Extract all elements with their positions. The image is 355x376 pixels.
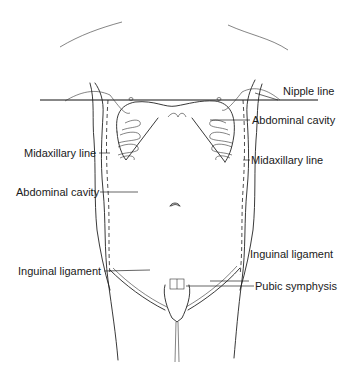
left-rib <box>118 132 140 143</box>
xiphoid-process <box>168 113 186 117</box>
label-abdominal-cavity-right: Abdominal cavity <box>252 114 335 126</box>
right-costal-margin <box>192 118 225 162</box>
left-rib <box>118 144 138 155</box>
right-inguinal-ligament <box>188 268 240 310</box>
left-chest-curve <box>65 91 130 113</box>
right-rib <box>210 120 228 130</box>
right-rib <box>212 144 232 155</box>
leader-inguinal-ligament-left <box>104 270 150 271</box>
right-inguinal-ligament-inner <box>186 266 237 307</box>
left-midaxillary-line <box>107 100 111 275</box>
right-shoulder-curve <box>228 25 288 50</box>
label-abdominal-cavity-left: Abdominal cavity <box>16 186 99 198</box>
left-inguinal-ligament <box>110 270 165 310</box>
label-pubic-symphysis: Pubic symphysis <box>255 280 337 292</box>
left-rib <box>122 120 140 130</box>
label-nipple-line: Nipple line <box>283 85 334 97</box>
right-rib <box>210 132 232 143</box>
label-inguinal-ligament-left: Inguinal ligament <box>18 265 101 277</box>
right-inner-leg <box>178 322 179 362</box>
left-shoulder-curve <box>60 22 122 47</box>
right-midaxillary-line <box>240 100 245 275</box>
anatomy-diagram: Nipple line Abdominal cavity Midaxillary… <box>0 0 355 376</box>
label-midaxillary-line-right: Midaxillary line <box>251 154 323 166</box>
umbilicus <box>170 203 180 206</box>
left-inner-leg <box>175 322 176 362</box>
costal-margin-outline <box>117 101 235 162</box>
left-inguinal-ligament-inner <box>113 268 167 307</box>
label-midaxillary-line-left: Midaxillary line <box>24 147 96 159</box>
label-inguinal-ligament-right: Inguinal ligament <box>250 248 333 260</box>
genital-outline <box>164 285 190 322</box>
